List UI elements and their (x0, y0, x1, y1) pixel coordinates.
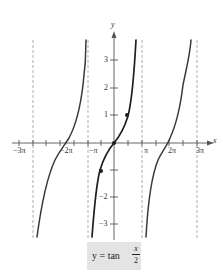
y-tick-neg-3: −3 (99, 219, 108, 228)
fraction-denominator: 2 (132, 256, 140, 265)
y-tick-neg-2: −2 (99, 192, 108, 201)
asymptotes (33, 40, 197, 240)
equation-text: y = tan (92, 250, 120, 261)
x-tick-neg-3pi: −3π (13, 146, 26, 155)
curve-right-branch (146, 40, 191, 237)
y-tick-3: 3 (104, 55, 108, 64)
x-tick-neg-pi: −π (89, 146, 98, 155)
y-tick-2: 2 (104, 83, 108, 92)
fraction-numerator: x (132, 244, 140, 253)
point-neg-half-pi (99, 169, 103, 173)
x-tick-pi: π (144, 146, 148, 155)
x-tick-2pi: 2π (168, 146, 176, 155)
y-tick-1: 1 (104, 110, 108, 119)
curve-left-branch (37, 40, 86, 237)
y-axis (110, 31, 118, 240)
x-tick-neg-2pi: −2π (60, 146, 73, 155)
x-tick-3pi: 3π (196, 146, 204, 155)
y-axis-label: y (111, 20, 115, 29)
x-axis-label: x (213, 136, 217, 145)
y-axis-arrow-icon (112, 31, 117, 38)
fraction-bar (132, 254, 140, 255)
equation-fraction: x 2 (132, 244, 140, 265)
point-half-pi (125, 113, 129, 117)
point-origin (112, 141, 116, 145)
plot-area (0, 0, 223, 275)
